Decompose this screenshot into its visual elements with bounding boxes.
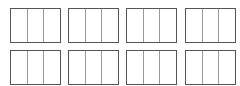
box-r1-c2 <box>68 8 119 43</box>
box-cell <box>43 9 60 42</box>
box-cell <box>69 9 85 42</box>
box-cell <box>127 51 143 84</box>
box-r2-c4 <box>185 50 236 85</box>
box-cell <box>43 51 60 84</box>
box-grid <box>0 0 240 86</box>
box-cell <box>159 51 176 84</box>
box-cell <box>27 9 44 42</box>
box-r1-c3 <box>126 8 177 43</box>
box-r2-c2 <box>68 50 119 85</box>
box-cell <box>85 51 102 84</box>
box-cell <box>143 9 160 42</box>
box-cell <box>11 51 27 84</box>
box-cell <box>202 9 219 42</box>
box-cell <box>11 9 27 42</box>
box-cell <box>69 51 85 84</box>
box-cell <box>159 9 176 42</box>
box-r2-c3 <box>126 50 177 85</box>
box-cell <box>143 51 160 84</box>
box-r2-c1 <box>10 50 61 85</box>
box-cell <box>218 51 235 84</box>
box-cell <box>101 9 118 42</box>
box-r1-c4 <box>185 8 236 43</box>
box-cell <box>218 9 235 42</box>
box-cell <box>85 9 102 42</box>
box-cell <box>186 51 202 84</box>
box-cell <box>101 51 118 84</box>
box-cell <box>127 9 143 42</box>
box-r1-c1 <box>10 8 61 43</box>
box-cell <box>27 51 44 84</box>
box-cell <box>202 51 219 84</box>
box-cell <box>186 9 202 42</box>
